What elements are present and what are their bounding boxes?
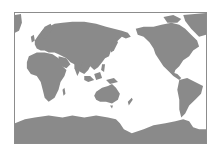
antarctica [15,115,206,143]
central-america [171,72,181,80]
south-america [177,78,203,117]
tasmania [110,106,113,109]
world-map-svg [15,13,206,143]
greenland-west-wrap [15,14,22,33]
british-isles [31,35,35,43]
borneo [94,72,102,80]
australia [94,84,120,104]
canadian-arctic-islands [163,15,181,23]
new-guinea [106,78,118,84]
philippines [101,64,105,72]
north-america [136,23,199,76]
madagascar [63,88,66,96]
world-map [14,12,207,144]
new-zealand [128,98,133,106]
indonesia [84,76,94,82]
